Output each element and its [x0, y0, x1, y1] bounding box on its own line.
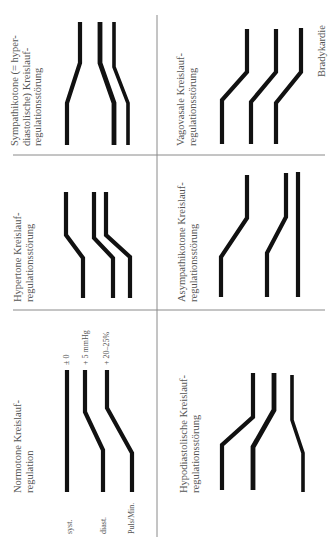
syst-change-label: ± 0: [62, 355, 71, 365]
title-line: diastolische) Kreislauf-: [21, 35, 33, 146]
diast-change-label: + 5 mmHg: [81, 330, 90, 365]
title-line: Sympathikotone (= hyper-: [9, 35, 21, 146]
title-line: regulationsstörung: [188, 182, 200, 302]
hypertone-title: Hypertone Kreislauf- regulationsstörung: [12, 212, 35, 302]
title-line: regulation: [24, 400, 36, 493]
title-line: Asympathikotone Kreislauf-: [176, 182, 188, 302]
bradykardie-annotation: Bradykardie: [316, 25, 328, 77]
pulse-change-label: + 20–25%: [102, 332, 111, 365]
hypodiastolische-curves: [222, 373, 303, 492]
title-line: Vagovasale Kreislauf-: [175, 53, 187, 146]
normotone-title: Normotone Kreislauf- regulation: [12, 400, 35, 493]
syst-curve: [222, 373, 253, 490]
syst-curve: [66, 192, 83, 298]
diast-curve: [100, 22, 114, 145]
normotone-curves: [67, 370, 132, 492]
title-line: regulationsstörung: [187, 53, 199, 146]
diast-curve: [94, 192, 113, 298]
title-line: regulationsstörung: [190, 375, 202, 493]
vagovasale-title: Vagovasale Kreislauf- regulationsstörung: [175, 53, 198, 146]
title-line: regulationsstörung: [24, 212, 36, 302]
diast-curve: [85, 370, 103, 492]
asympathikotone-title: Asympathikotone Kreislauf- regulationsst…: [176, 182, 199, 302]
vagovasale-curves: [222, 28, 301, 144]
sympathikotone-curves: [67, 22, 128, 145]
pulse-curve: [107, 370, 132, 492]
pulse-curve: [276, 28, 301, 144]
pulse-curve: [106, 192, 130, 298]
diast-curve: [251, 29, 276, 144]
syst-curve: [222, 29, 247, 144]
diast-curve: [267, 173, 286, 297]
annotation-text: Bradykardie: [316, 25, 328, 77]
title-line: Hypodiastolische Kreislauf-: [178, 375, 190, 493]
hypodiastolische-title: Hypodiastolische Kreislauf- regulationss…: [178, 375, 201, 493]
asympathikotone-curves: [221, 172, 298, 297]
sympathikotone-title: Sympathikotone (= hyper- diastolische) K…: [9, 35, 44, 146]
diast-curve: [253, 373, 274, 490]
syst-label: syst.: [65, 520, 74, 534]
hypertone-curves: [66, 192, 130, 298]
title-line: regulationsstörung: [32, 35, 44, 146]
circulation-regulation-diagram: [0, 0, 330, 539]
diast-label: diast.: [99, 517, 108, 534]
syst-curve: [221, 175, 247, 297]
title-line: Hypertone Kreislauf-: [12, 212, 24, 302]
syst-curve: [67, 22, 80, 145]
pulse-label: Puls/Min.: [127, 503, 136, 534]
title-line: Normotone Kreislauf-: [12, 400, 24, 493]
pulse-curve: [292, 375, 303, 492]
